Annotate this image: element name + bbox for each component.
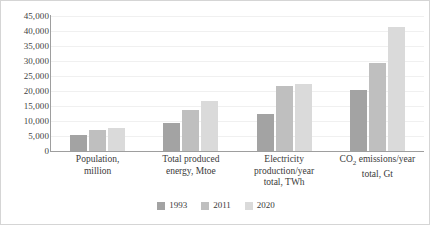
bar[interactable] bbox=[163, 123, 180, 151]
bar[interactable] bbox=[257, 114, 274, 151]
y-tick-label: 0 bbox=[44, 147, 49, 156]
bar-group bbox=[51, 16, 144, 151]
category-label-line: CO bbox=[340, 154, 353, 164]
category-label: Total produced energy, Mtoe bbox=[144, 154, 237, 189]
bar-groups bbox=[51, 16, 424, 151]
category-label-line: total, Gt bbox=[362, 169, 393, 179]
x-axis-line bbox=[50, 151, 424, 152]
bar[interactable] bbox=[89, 130, 106, 151]
legend-item[interactable]: 2011 bbox=[201, 201, 231, 210]
category-label-line: million bbox=[84, 166, 111, 176]
y-tick-label: 5,000 bbox=[28, 132, 49, 141]
category-label-line: Electricity bbox=[264, 154, 304, 164]
category-label: CO2 emissions/year total, Gt bbox=[331, 154, 424, 189]
bar[interactable] bbox=[276, 86, 293, 151]
bar[interactable] bbox=[108, 128, 125, 151]
category-label-line: production/year bbox=[254, 166, 314, 176]
bar[interactable] bbox=[182, 110, 199, 151]
bar[interactable] bbox=[201, 101, 218, 151]
chart-legend: 199320112020 bbox=[1, 201, 430, 210]
bar-group bbox=[144, 16, 237, 151]
bar[interactable] bbox=[388, 27, 405, 151]
legend-swatch-icon bbox=[201, 202, 209, 210]
legend-item[interactable]: 1993 bbox=[157, 201, 187, 210]
bar[interactable] bbox=[295, 84, 312, 151]
y-tick-label: 15,000 bbox=[24, 102, 49, 111]
category-label-line: emissions/year bbox=[356, 154, 415, 164]
legend-label: 2011 bbox=[213, 201, 231, 210]
y-tick-label: 25,000 bbox=[24, 72, 49, 81]
category-label: Population, million bbox=[51, 154, 144, 189]
y-tick-label: 10,000 bbox=[24, 117, 49, 126]
legend-item[interactable]: 2020 bbox=[245, 201, 275, 210]
y-tick-label: 30,000 bbox=[24, 57, 49, 66]
bar-group bbox=[331, 16, 424, 151]
y-tick-label: 20,000 bbox=[24, 87, 49, 96]
bar[interactable] bbox=[350, 90, 367, 152]
bar[interactable] bbox=[70, 135, 87, 152]
category-label-line: Total produced bbox=[162, 154, 219, 164]
grouped-bar-chart: 45,000 40,000 35,000 30,000 25,000 20,00… bbox=[0, 0, 430, 225]
category-label-line: energy, Mtoe bbox=[166, 166, 216, 176]
legend-label: 1993 bbox=[169, 201, 187, 210]
bar-group bbox=[238, 16, 331, 151]
y-tick-label: 40,000 bbox=[24, 27, 49, 36]
legend-label: 2020 bbox=[257, 201, 275, 210]
category-label-line: Population, bbox=[76, 154, 120, 164]
bar[interactable] bbox=[369, 63, 386, 151]
y-tick-label: 35,000 bbox=[24, 42, 49, 51]
legend-swatch-icon bbox=[245, 202, 253, 210]
legend-swatch-icon bbox=[157, 202, 165, 210]
plot-area: 45,000 40,000 35,000 30,000 25,000 20,00… bbox=[1, 1, 430, 161]
x-axis-category-labels: Population, million Total produced energ… bbox=[51, 154, 424, 189]
y-axis-tick-labels: 45,000 40,000 35,000 30,000 25,000 20,00… bbox=[5, 16, 49, 151]
category-label-line: total, TWh bbox=[264, 177, 305, 187]
category-label: Electricity production/year total, TWh bbox=[238, 154, 331, 189]
y-tick-label: 45,000 bbox=[24, 12, 49, 21]
